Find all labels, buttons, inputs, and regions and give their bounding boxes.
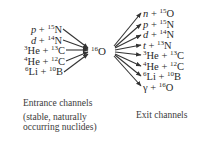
mass-number: 16 bbox=[159, 81, 166, 89]
mass-number: 10 bbox=[49, 65, 56, 73]
arrow-entrance-1 bbox=[63, 29, 88, 48]
mass-number: 15 bbox=[159, 18, 166, 26]
particle: p bbox=[31, 24, 36, 35]
particle: He bbox=[147, 50, 159, 61]
mass-number: 15 bbox=[159, 7, 166, 15]
arrow-exit-5 bbox=[115, 52, 141, 55]
mass-number: 3 bbox=[143, 49, 147, 57]
mass-number: 6 bbox=[143, 70, 147, 78]
arrow-exit-8 bbox=[114, 56, 141, 86]
mass-number: 4 bbox=[143, 60, 147, 68]
compound-nucleus: 16O bbox=[91, 45, 106, 59]
plus-sign: + bbox=[40, 66, 46, 77]
mass-number: 4 bbox=[24, 55, 28, 63]
plus-sign: + bbox=[42, 45, 48, 56]
plus-sign: + bbox=[39, 24, 45, 35]
plus-sign: + bbox=[161, 50, 167, 61]
mass-number: 13 bbox=[157, 39, 164, 47]
arrow-exit-7 bbox=[115, 55, 141, 76]
mass-number: 13 bbox=[51, 44, 58, 52]
arrow-exit-6 bbox=[115, 54, 141, 66]
particle: γ bbox=[143, 82, 148, 93]
residual-nucleus: C bbox=[177, 50, 184, 61]
mass-number: 15 bbox=[47, 23, 54, 31]
mass-number: 3 bbox=[24, 44, 28, 52]
particle: n bbox=[143, 8, 148, 19]
target-nucleus: N bbox=[54, 24, 62, 35]
target-nucleus: B bbox=[56, 66, 63, 77]
nucleus-symbol: O bbox=[98, 45, 106, 57]
residual-nucleus: B bbox=[174, 71, 181, 82]
plus-sign: + bbox=[151, 29, 157, 40]
residual-nucleus: O bbox=[166, 82, 174, 93]
mass-number: 13 bbox=[170, 49, 177, 57]
entrance-channels-title: Entrance channels bbox=[23, 98, 92, 109]
arrow-exit-1 bbox=[114, 13, 141, 46]
mass-number: 12 bbox=[51, 55, 58, 63]
mass-number: 16 bbox=[91, 45, 98, 53]
exit-arrows bbox=[114, 13, 141, 86]
mass-number: 14 bbox=[159, 28, 166, 36]
particle: Li bbox=[147, 71, 156, 82]
particle: Li bbox=[28, 66, 37, 77]
entrance-channel: 6Li + 10B bbox=[25, 66, 63, 79]
residual-nucleus: O bbox=[166, 8, 174, 19]
particle: He bbox=[28, 45, 40, 56]
plus-sign: + bbox=[150, 82, 156, 93]
target-nucleus: C bbox=[58, 45, 65, 56]
mass-number: 14 bbox=[47, 34, 54, 42]
mass-number: 6 bbox=[25, 65, 29, 73]
arrow-exit-2 bbox=[115, 24, 141, 47]
particle: d bbox=[143, 29, 148, 40]
exit-channels-title: Exit channels bbox=[136, 110, 187, 121]
plus-sign: + bbox=[151, 8, 157, 19]
entrance-channels-note-line2: occurring nuclides) bbox=[23, 122, 97, 133]
exit-channel: γ + 16O bbox=[143, 82, 173, 95]
mass-number: 10 bbox=[167, 70, 174, 78]
entrance-arrows bbox=[63, 29, 88, 72]
mass-number: 12 bbox=[170, 60, 177, 68]
residual-nucleus: N bbox=[166, 29, 174, 40]
